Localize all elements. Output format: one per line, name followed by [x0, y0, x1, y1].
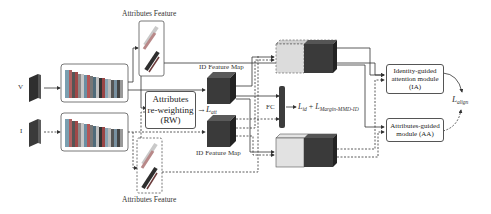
attributes-feature-top-label: Attributes Feature [122, 9, 176, 18]
id-feature-map-top-label: ID Feature Map [199, 63, 244, 71]
ia-line1: Identity-guided [393, 67, 436, 75]
arrow-aa-to-align [443, 110, 461, 131]
rw-line1: Attributes [153, 94, 189, 104]
input-v-block [29, 74, 41, 102]
rw-line3: (RW) [161, 115, 181, 125]
attributes-feature-bottom-label: Attributes Feature [122, 195, 176, 204]
fc-label: FC [266, 103, 275, 111]
diagram-canvas [0, 0, 491, 214]
backbone-v [61, 64, 128, 102]
id-feature-map-bottom-label: ID Feature Map [196, 149, 241, 157]
input-i-block [29, 119, 41, 147]
aa-line2: module (AA) [396, 130, 434, 138]
ia-line3: (IA) [409, 83, 421, 91]
input-i-label: I [20, 127, 22, 135]
connectors-modules [337, 48, 384, 127]
fc-layer [279, 86, 285, 128]
id-feature-map-top [207, 72, 236, 104]
fused-feature-top [276, 40, 337, 73]
loss-align: Lalign [452, 94, 468, 105]
connectors-modules-dashed [337, 80, 384, 157]
arrow-ia-to-align [443, 73, 462, 92]
attributes-feature-top [139, 21, 164, 76]
rw-module: Attributes re-weighting (RW) [145, 91, 196, 129]
aa-module: Attributes-guided module (AA) [386, 118, 444, 142]
fused-feature-bottom [276, 134, 337, 167]
rw-line2: re-weighting [148, 105, 194, 115]
input-v-label: V [18, 83, 23, 91]
aa-line1: Attributes-guided [390, 122, 439, 130]
loss-att: →Latt [197, 104, 217, 115]
ia-line2: attention module [391, 75, 438, 83]
attributes-feature-bottom [137, 138, 162, 193]
loss-id-mmd: Lid + LMargin-MMD-ID [298, 102, 359, 112]
ia-module: Identity-guided attention module (IA) [386, 64, 444, 94]
loss-att-arrow: → [197, 104, 206, 114]
backbone-i [61, 113, 128, 151]
id-feature-map-bottom [207, 115, 236, 147]
